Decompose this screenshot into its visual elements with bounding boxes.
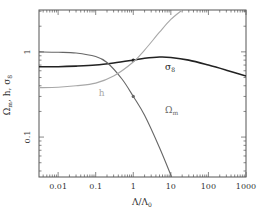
x-tick-label: 1: [131, 182, 136, 191]
x-tick-label: 0.1: [89, 182, 102, 191]
curve-line: [39, 57, 246, 76]
series-8: σ8: [39, 57, 246, 76]
x-tick-label: 0.01: [49, 182, 67, 191]
plot-frame: [39, 10, 246, 177]
y-axis-label: Ωm, h, σ8: [2, 75, 13, 116]
axis-labels: 0.010.111010010000.11: [23, 49, 256, 191]
curve-line: [39, 52, 172, 177]
series-label: Ωm: [165, 105, 178, 116]
axis-ticks: [39, 10, 246, 177]
curve-line: [39, 10, 182, 88]
series-label: σ8: [165, 62, 175, 73]
plot-area: σ8Ωmh 0.010.111010010000.11 Λ/Λ0 Ωm, h, …: [0, 0, 265, 220]
x-tick-label: 1000: [236, 182, 256, 191]
series-label: h: [99, 88, 105, 98]
x-tick-label: 10: [166, 182, 176, 191]
y-tick-label: 1: [23, 49, 32, 54]
series-m: Ωm: [39, 52, 178, 177]
data-marker: [132, 95, 135, 98]
chart: σ8Ωmh 0.010.111010010000.11 Λ/Λ0 Ωm, h, …: [0, 0, 265, 220]
x-axis-label: Λ/Λ0: [131, 197, 152, 208]
series-h: h: [39, 10, 182, 98]
curves: σ8Ωmh: [39, 10, 246, 177]
y-tick-label: 0.1: [23, 131, 32, 144]
x-tick-label: 100: [201, 182, 216, 191]
